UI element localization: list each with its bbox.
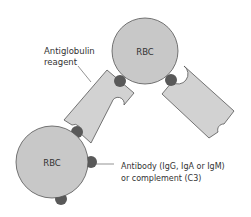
reagent-leader-line [78,66,91,82]
antibody-label-line1: Antibody (IgG, IgA or IgM) [121,162,225,171]
rbc-top-label: RBC [136,47,154,57]
diagram-svg: RBC RBC Antiglobulin reagent Antibody (I… [0,0,251,217]
reagent-label-line1: Antiglobulin [44,46,95,56]
antibody-label-line2: or complement (C3) [121,174,201,183]
rbc-bottom-label: RBC [43,158,61,168]
reagent-label-line2: reagent [44,57,78,67]
antiglobulin-diagram: RBC RBC Antiglobulin reagent Antibody (I… [0,0,251,217]
